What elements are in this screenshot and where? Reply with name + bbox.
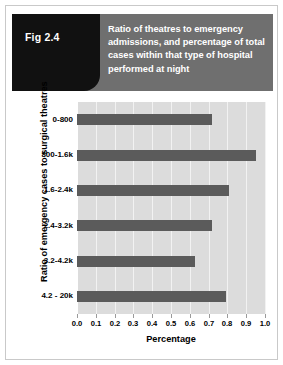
y-axis-tick-labels: 0-800800-1.6k1.6-2.4k2.4-3.2k3.2-4.2k4.2… <box>12 102 73 314</box>
bar-row <box>77 114 265 125</box>
chart: Ratio of emergency cases to surgical the… <box>12 96 273 354</box>
bar <box>77 256 195 267</box>
y-axis-tick-label: 1.6-2.4k <box>11 185 73 194</box>
x-axis: 0.00.10.20.30.40.50.60.70.80.91.0 <box>77 314 265 336</box>
x-axis-tick-mark <box>77 314 78 318</box>
bar-row <box>77 256 265 267</box>
bar <box>77 114 212 125</box>
plot-area <box>77 102 265 314</box>
figure-number-label: Fig 2.4 <box>25 31 60 43</box>
x-axis-tick-mark <box>246 314 247 318</box>
x-axis-tick-label: 1.0 <box>254 319 276 328</box>
x-axis-tick-mark <box>209 314 210 318</box>
gridline <box>77 102 78 314</box>
bar <box>77 150 256 161</box>
x-axis-tick-mark <box>115 314 116 318</box>
y-axis-tick-label: 2.4-3.2k <box>11 221 73 230</box>
x-axis-tick-mark <box>96 314 97 318</box>
bar-row <box>77 185 265 196</box>
gridline <box>190 102 191 314</box>
bar <box>77 291 226 302</box>
x-axis-tick-mark <box>171 314 172 318</box>
gridline <box>152 102 153 314</box>
bar-row <box>77 291 265 302</box>
gridline <box>115 102 116 314</box>
gridline <box>209 102 210 314</box>
bar <box>77 220 212 231</box>
x-axis-tick-mark <box>152 314 153 318</box>
x-axis-title: Percentage <box>77 334 265 344</box>
gridline <box>171 102 172 314</box>
bar-row <box>77 150 265 161</box>
gridline <box>96 102 97 314</box>
x-axis-tick-mark <box>227 314 228 318</box>
gridline <box>227 102 228 314</box>
y-axis-tick-label: 4.2 - 20k <box>11 291 73 300</box>
bar-row <box>77 220 265 231</box>
y-axis-tick-label: 3.2-4.2k <box>11 256 73 265</box>
gridline <box>133 102 134 314</box>
x-axis-tick-mark <box>190 314 191 318</box>
x-axis-tick-mark <box>133 314 134 318</box>
figure-card: Fig 2.4 Ratio of theatres to emergency a… <box>5 5 278 360</box>
gridline <box>246 102 247 314</box>
x-axis-tick-mark <box>265 314 266 318</box>
figure-number-box: Fig 2.4 <box>12 14 100 91</box>
bar <box>77 185 229 196</box>
gridline <box>265 102 266 314</box>
figure-header: Fig 2.4 Ratio of theatres to emergency a… <box>12 14 273 91</box>
y-axis-tick-label: 800-1.6k <box>11 150 73 159</box>
figure-title: Ratio of theatres to emergency admission… <box>108 23 268 76</box>
y-axis-tick-label: 0-800 <box>11 115 73 124</box>
